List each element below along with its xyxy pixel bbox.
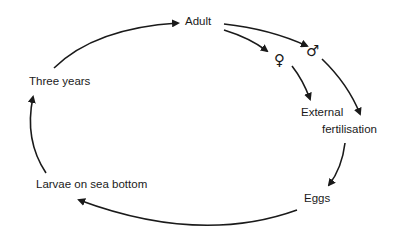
node-larvae: Larvae on sea bottom xyxy=(36,179,147,191)
node-eggs: Eggs xyxy=(304,193,330,205)
female-symbol-icon: ♀ xyxy=(274,53,285,68)
node-external: External xyxy=(301,107,343,119)
arrow-three-years-to-adult xyxy=(54,23,178,68)
node-fertilisation: fertilisation xyxy=(322,124,377,136)
arrow-female-to-fertilisation xyxy=(292,66,310,99)
node-three-years: Three years xyxy=(29,76,90,88)
arrow-fertilisation-to-eggs xyxy=(329,143,345,185)
arrow-adult-to-female xyxy=(224,30,267,51)
cycle-arrows xyxy=(0,0,402,244)
arrow-larvae-to-three-years xyxy=(30,97,46,173)
arrow-eggs-to-larvae xyxy=(79,200,297,225)
male-symbol-icon: ♂ xyxy=(306,44,319,59)
node-adult: Adult xyxy=(185,16,211,28)
